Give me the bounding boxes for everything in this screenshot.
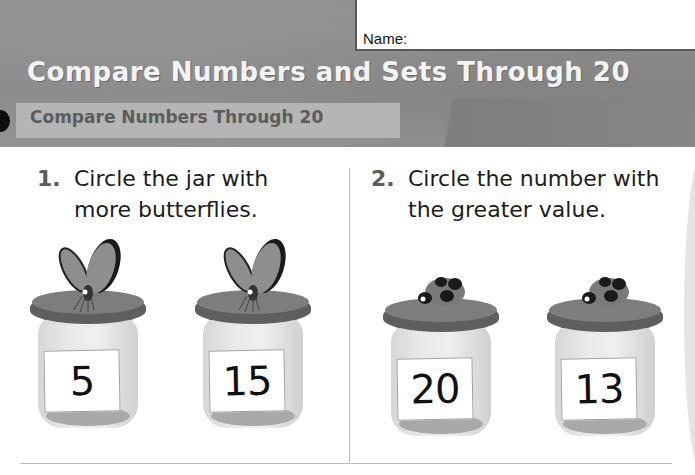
jar-number: 15 <box>222 358 272 405</box>
jar-number-label: 13 <box>560 357 637 420</box>
jar-number: 20 <box>410 366 460 413</box>
ladybug-icon <box>575 270 635 310</box>
jar-number: 5 <box>69 358 94 404</box>
name-label: Name: <box>363 30 407 47</box>
lesson-subtitle: Compare Numbers Through 20 <box>30 107 323 127</box>
ladybug-icon <box>411 270 471 310</box>
page-title: Compare Numbers and Sets Through 20 <box>27 57 630 87</box>
butterfly-icon <box>52 236 132 316</box>
jar-number-label: 20 <box>396 357 473 420</box>
question-number: 2. <box>371 163 395 194</box>
jar-number-label: 5 <box>43 349 120 412</box>
name-field[interactable]: Name: <box>355 0 695 51</box>
jar-15[interactable]: 15 <box>195 238 311 438</box>
header-band-accent <box>380 98 695 147</box>
jar-13[interactable]: 13 <box>547 246 663 446</box>
jar-5[interactable]: 5 <box>30 238 146 438</box>
question-text: Circle the number with the greater value… <box>408 163 695 225</box>
jar-20[interactable]: 20 <box>383 246 499 446</box>
bottom-rule <box>20 463 672 464</box>
column-divider <box>349 168 350 464</box>
jar-number: 13 <box>574 366 624 413</box>
question-text: Circle the jar with more butterflies. <box>74 163 364 225</box>
jar-number-label: 15 <box>208 349 285 412</box>
question-number: 1. <box>37 163 61 194</box>
butterfly-icon <box>217 236 297 316</box>
